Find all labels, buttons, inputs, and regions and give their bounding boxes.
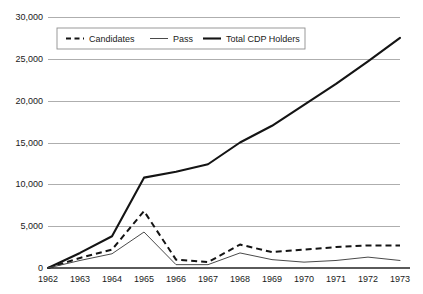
series-line-pass bbox=[48, 232, 400, 268]
xtick-label-3: 1965 bbox=[134, 274, 154, 284]
ytick-label-0: 30,000 bbox=[15, 12, 43, 22]
line-chart: 30,000 25,000 20,000 15,000 10,000 5,000… bbox=[0, 0, 423, 294]
xtick-label-8: 1970 bbox=[294, 274, 314, 284]
ytick-label-3: 15,000 bbox=[15, 138, 43, 148]
y-axis-tick-labels: 30,000 25,000 20,000 15,000 10,000 5,000… bbox=[15, 12, 43, 273]
xtick-label-6: 1968 bbox=[230, 274, 250, 284]
legend-label-pass: Pass bbox=[173, 34, 194, 44]
xtick-label-7: 1969 bbox=[262, 274, 282, 284]
legend-label-total-cdp-holders: Total CDP Holders bbox=[226, 34, 300, 44]
xtick-label-4: 1966 bbox=[166, 274, 186, 284]
ytick-label-2: 20,000 bbox=[15, 96, 43, 106]
xtick-label-11: 1973 bbox=[390, 274, 410, 284]
ytick-label-5: 5,000 bbox=[20, 221, 43, 231]
xtick-label-2: 1964 bbox=[102, 274, 122, 284]
xtick-label-5: 1967 bbox=[198, 274, 218, 284]
chart-canvas: 30,000 25,000 20,000 15,000 10,000 5,000… bbox=[0, 0, 423, 294]
xtick-label-0: 1962 bbox=[38, 274, 58, 284]
xtick-label-9: 1971 bbox=[326, 274, 346, 284]
legend-label-candidates: Candidates bbox=[89, 34, 135, 44]
xtick-label-10: 1972 bbox=[358, 274, 378, 284]
x-axis-tick-labels: 1962 1963 1964 1965 1966 1967 1968 1969 … bbox=[38, 274, 410, 284]
ytick-label-6: 0 bbox=[38, 263, 43, 273]
xtick-label-1: 1963 bbox=[70, 274, 90, 284]
legend: Candidates Pass Total CDP Holders bbox=[57, 28, 305, 49]
ytick-label-4: 10,000 bbox=[15, 179, 43, 189]
series-line-total-cdp-holders bbox=[48, 38, 400, 268]
series-group bbox=[48, 38, 400, 268]
ytick-label-1: 25,000 bbox=[15, 54, 43, 64]
